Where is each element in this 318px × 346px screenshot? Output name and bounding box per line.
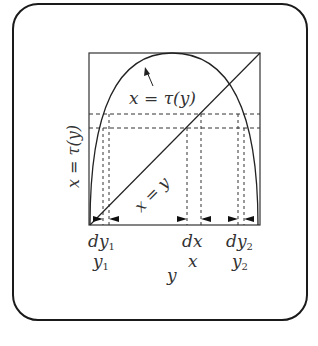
curve-pointer-arrow — [144, 67, 153, 86]
invariant-density-diagram: x = τ(y) x = y x = τ(y) dy1 y1 dx x dy2 … — [0, 0, 318, 346]
svg-text:y2: y2 — [231, 251, 248, 272]
diagonal-label: x = y — [130, 172, 174, 216]
svg-text:dy2: dy2 — [226, 231, 253, 252]
dashed-verticals — [103, 114, 244, 225]
svg-text:dy1: dy1 — [88, 231, 115, 252]
svg-text:dx: dx — [182, 231, 203, 251]
diagonal-line — [90, 53, 260, 225]
horizontal-axis-label: y — [166, 265, 177, 285]
vertical-axis-label: x = τ(y) — [64, 125, 83, 188]
curve-label: x = τ(y) — [129, 88, 196, 108]
svg-text:y1: y1 — [92, 251, 109, 272]
dashed-horizontals — [89, 114, 260, 128]
interval-label-dx: dx x — [182, 231, 203, 271]
figure-caption — [20, 336, 310, 346]
svg-text:x: x — [188, 251, 198, 271]
interval-label-dy2: dy2 y2 — [226, 231, 253, 272]
interval-arrows — [93, 216, 254, 222]
interval-label-dy1: dy1 y1 — [88, 231, 115, 272]
